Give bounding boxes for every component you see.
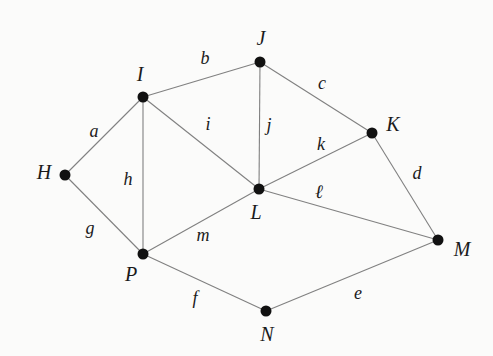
- edge-f: [143, 254, 266, 311]
- edge-label-h: h: [124, 170, 133, 188]
- edge-label-c: c: [318, 74, 326, 92]
- edge-a: [65, 97, 143, 175]
- vertex-J[interactable]: [255, 57, 266, 68]
- vertex-P[interactable]: [138, 249, 149, 260]
- edge-label-m: m: [197, 226, 210, 244]
- vertex-label-L: L: [250, 202, 261, 222]
- edge-label-k: k: [317, 135, 325, 153]
- vertex-I[interactable]: [138, 92, 149, 103]
- vertex-label-I: I: [137, 64, 144, 84]
- vertex-L[interactable]: [254, 184, 265, 195]
- graph-diagram-canvas: abcdefghijkℓmHIJKLMNP: [0, 0, 493, 356]
- edge-i: [143, 97, 259, 189]
- vertex-K[interactable]: [367, 128, 378, 139]
- vertex-H[interactable]: [60, 170, 71, 181]
- edge-label-g: g: [86, 219, 95, 237]
- vertex-M[interactable]: [433, 235, 444, 246]
- edge-label-j: j: [266, 116, 271, 134]
- vertex-label-H: H: [37, 162, 51, 182]
- vertex-label-J: J: [257, 28, 266, 48]
- edge-label-i: i: [205, 115, 210, 133]
- edge-label-a: a: [90, 122, 99, 140]
- vertex-label-K: K: [386, 114, 399, 134]
- edges-group: [65, 62, 438, 311]
- vertex-label-M: M: [454, 239, 471, 259]
- vertex-N[interactable]: [261, 306, 272, 317]
- edge-c: [260, 62, 372, 133]
- vertices-group: [60, 57, 444, 317]
- edge-label-e: e: [354, 284, 362, 302]
- edge-label-d: d: [413, 164, 422, 182]
- edge-label-b: b: [201, 49, 210, 67]
- vertex-label-N: N: [260, 324, 273, 344]
- edge-e: [266, 240, 438, 311]
- edge-label-f: f: [192, 289, 197, 307]
- vertex-label-P: P: [125, 264, 137, 284]
- edge-j: [259, 62, 260, 189]
- edge-label-l: ℓ: [315, 182, 323, 201]
